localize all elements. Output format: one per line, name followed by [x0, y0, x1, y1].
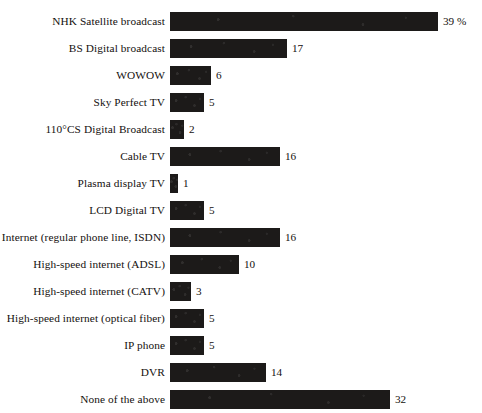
bar-value-label: 16 — [285, 228, 296, 247]
category-label: Cable TV — [120, 144, 165, 171]
bar-row: High-speed internet (ADSL)10 — [0, 252, 482, 279]
bar-row: Internet (regular phone line, ISDN)16 — [0, 225, 482, 252]
bar-texture — [170, 282, 191, 301]
bar-row: None of the above32 — [0, 387, 482, 413]
bar-row: High-speed internet (optical fiber)5 — [0, 306, 482, 333]
bar-value-label: 10 — [244, 255, 255, 274]
category-label: IP phone — [124, 333, 165, 360]
bar — [170, 255, 239, 274]
bar-value-label: 5 — [209, 336, 215, 355]
category-label: Sky Perfect TV — [94, 90, 165, 117]
bar-value-label: 17 — [292, 39, 303, 58]
bar — [170, 363, 266, 382]
bar-texture — [170, 147, 280, 166]
category-label: NHK Satellite broadcast — [52, 9, 165, 36]
plot-area: NHK Satellite broadcast39 %BS Digital br… — [0, 9, 482, 389]
category-label: DVR — [141, 360, 165, 387]
bar — [170, 390, 390, 409]
bar-value-label: 6 — [216, 66, 222, 85]
category-label: LCD Digital TV — [89, 198, 165, 225]
category-label: 110°CS Digital Broadcast — [46, 117, 165, 144]
bar-value-label: 16 — [285, 147, 296, 166]
bar-row: LCD Digital TV5 — [0, 198, 482, 225]
bar — [170, 336, 204, 355]
bar-value-label: 2 — [189, 120, 195, 139]
bar-texture — [170, 363, 266, 382]
bar-texture — [170, 201, 204, 220]
bar-texture — [170, 336, 204, 355]
bar-texture — [170, 93, 204, 112]
bar-row: BS Digital broadcast17 — [0, 36, 482, 63]
bar-value-label: 3 — [196, 282, 202, 301]
bar-row: Cable TV16 — [0, 144, 482, 171]
category-label: Internet (regular phone line, ISDN) — [2, 225, 165, 252]
bar — [170, 39, 287, 58]
bar — [170, 201, 204, 220]
category-label: High-speed internet (optical fiber) — [7, 306, 165, 333]
bar-texture — [170, 228, 280, 247]
bar-value-label: 32 — [395, 390, 406, 409]
bar — [170, 309, 204, 328]
bar-value-label: 14 — [271, 363, 282, 382]
bar — [170, 228, 280, 247]
bar-row: High-speed internet (CATV)3 — [0, 279, 482, 306]
bar-row: WOWOW6 — [0, 63, 482, 90]
bar-row: IP phone5 — [0, 333, 482, 360]
bar-row: NHK Satellite broadcast39 % — [0, 9, 482, 36]
bar-texture — [170, 255, 239, 274]
bar-texture — [170, 120, 184, 139]
bar-texture — [170, 174, 178, 193]
bar-value-label: 5 — [209, 309, 215, 328]
bar-texture — [170, 309, 204, 328]
bar — [170, 147, 280, 166]
bar-value-label: 1 — [183, 174, 189, 193]
category-label: Plasma display TV — [78, 171, 165, 198]
bar — [170, 282, 191, 301]
bar-value-label: 39 % — [443, 12, 466, 31]
bar — [170, 174, 178, 193]
bar-row: DVR14 — [0, 360, 482, 387]
category-label: BS Digital broadcast — [69, 36, 165, 63]
bar — [170, 93, 204, 112]
category-label: High-speed internet (ADSL) — [33, 252, 165, 279]
bar — [170, 120, 184, 139]
bar-texture — [170, 12, 438, 31]
bar — [170, 12, 438, 31]
bar-value-label: 5 — [209, 201, 215, 220]
bar-texture — [170, 39, 287, 58]
category-label: High-speed internet (CATV) — [33, 279, 165, 306]
bar-texture — [170, 66, 211, 85]
bar — [170, 66, 211, 85]
category-label: WOWOW — [116, 63, 165, 90]
bar-row: Sky Perfect TV5 — [0, 90, 482, 117]
bar-row: Plasma display TV1 — [0, 171, 482, 198]
bar-row: 110°CS Digital Broadcast2 — [0, 117, 482, 144]
bar-texture — [170, 390, 390, 409]
bar-value-label: 5 — [209, 93, 215, 112]
category-label: None of the above — [80, 387, 165, 413]
